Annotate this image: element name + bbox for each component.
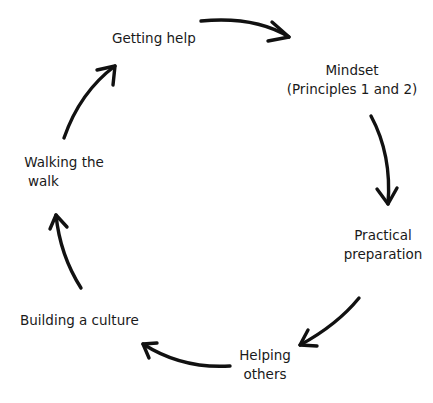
arrow-getting-help-to-mindset [201,20,289,41]
node-helping-others: Helping others [225,346,305,384]
node-mindset: Mindset (Principles 1 and 2) [272,61,432,99]
arrow-building-a-culture-to-walking-the-walk [50,215,81,288]
node-walking-the-walk: Walking the walk [18,153,110,191]
node-practical-preparation: Practical preparation [335,226,431,264]
node-label-line: walk [18,172,110,191]
node-label-line: (Principles 1 and 2) [272,80,432,99]
node-label-line: preparation [335,245,431,264]
node-label-line: Helping [225,346,305,365]
arrow-practical-preparation-to-helping-others [300,298,359,346]
node-label-line: Getting help [112,29,196,48]
node-label-line: Walking the [18,153,110,172]
arrow-walking-the-walk-to-getting-help [64,66,115,138]
arrow-mindset-to-practical-preparation [371,116,397,204]
node-label-line: Practical [335,226,431,245]
node-label-line: others [225,365,305,384]
arrow-helping-others-to-building-a-culture [143,343,230,366]
node-getting-help: Getting help [112,29,196,48]
node-label-line: Building a culture [20,311,139,330]
node-label-line: Mindset [272,61,432,80]
node-building-a-culture: Building a culture [20,311,139,330]
